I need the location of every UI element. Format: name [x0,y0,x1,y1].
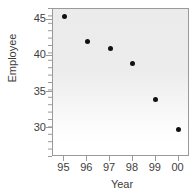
x-axis-title: Year [48,178,196,190]
data-point [176,127,181,132]
data-point [62,14,67,19]
scatter-chart-figure: Employee 45403530 959697989900 Year [0,0,196,195]
data-point [85,39,90,44]
y-tick-label: 40 [14,49,46,60]
data-point [108,46,113,51]
x-axis-tick-labels: 959697989900 [0,161,196,175]
data-point [130,61,135,66]
plot-panel [52,8,189,156]
data-point [153,97,158,102]
x-tick-label: 00 [165,161,191,173]
y-tick-label: 30 [14,122,46,133]
y-tick-label: 45 [14,13,46,24]
y-tick-label: 35 [14,86,46,97]
